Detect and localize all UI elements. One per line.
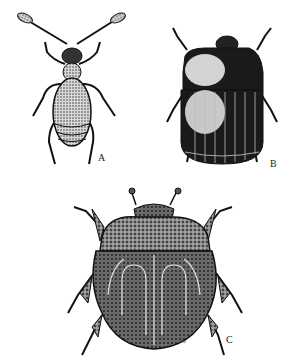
panel-label-a: A bbox=[98, 152, 105, 163]
beetle-b-drawing bbox=[165, 12, 280, 172]
beetle-b-illustration bbox=[165, 12, 280, 172]
panel-label-b: B bbox=[270, 158, 277, 169]
beetle-c-illustration: TM bbox=[62, 185, 247, 360]
beetle-c-drawing: TM bbox=[62, 185, 247, 360]
beetle-a-illustration bbox=[15, 12, 130, 167]
illustrator-signature: TM bbox=[180, 339, 186, 344]
panel-label-c: C bbox=[226, 334, 233, 345]
beetle-a-drawing bbox=[15, 12, 130, 167]
